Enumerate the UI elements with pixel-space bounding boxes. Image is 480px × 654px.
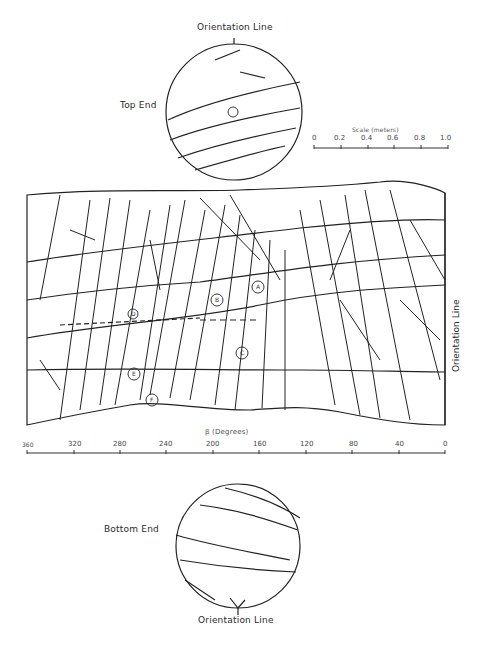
top-orientation-label: Orientation Line bbox=[197, 22, 273, 32]
zone-label-d: D bbox=[131, 310, 136, 317]
unrolled-panel bbox=[27, 181, 445, 425]
beta-axis-title: β (Degrees) bbox=[205, 428, 248, 436]
beta-axis bbox=[27, 450, 445, 454]
scale-bar bbox=[314, 145, 448, 149]
zone-label-c: C bbox=[240, 349, 244, 356]
bottom-orientation-label: Orientation Line bbox=[198, 615, 274, 625]
bottom-core-circle bbox=[176, 484, 300, 615]
zone-label-f: F bbox=[150, 396, 153, 403]
fracture-diagram bbox=[0, 0, 480, 654]
bottom-end-label: Bottom End bbox=[104, 524, 159, 534]
zone-label-b: B bbox=[215, 296, 219, 303]
panel-orientation-label: Orientation Line bbox=[451, 300, 461, 372]
zone-label-e: E bbox=[132, 370, 136, 377]
top-end-label: Top End bbox=[120, 100, 157, 110]
zone-label-a: A bbox=[256, 283, 260, 290]
scale-title: Scale (meters) bbox=[352, 126, 399, 133]
top-core-circle bbox=[166, 38, 302, 180]
